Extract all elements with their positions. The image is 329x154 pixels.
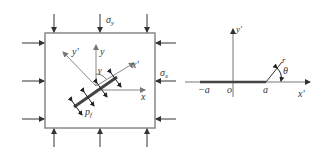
sigma-x-label: σx xyxy=(160,67,169,80)
gamma-label: γ xyxy=(98,65,102,75)
diagram-canvas: σy σx y x y' x' γ pf y' xyxy=(0,0,329,154)
right-y-prime-label: y' xyxy=(235,24,243,34)
left-stress-arrows xyxy=(22,43,44,119)
top-stress-arrows xyxy=(54,14,147,32)
pressure-label: pf xyxy=(84,106,93,119)
y-prime-label: y' xyxy=(71,46,79,57)
right-x-prime-label: x' xyxy=(297,88,305,99)
left-panel: σy σx y x y' x' γ pf xyxy=(22,14,176,147)
sigma-y-label: σy xyxy=(106,14,115,27)
origin-label: o xyxy=(227,84,232,95)
x-axis-label: x xyxy=(140,91,146,102)
theta-arc xyxy=(277,68,281,81)
a-label: a xyxy=(263,84,268,95)
y-axis-label: y xyxy=(99,46,105,57)
right-stress-arrows xyxy=(156,43,176,119)
minus-a-label: −a xyxy=(198,84,210,95)
bottom-stress-arrows xyxy=(54,129,147,147)
theta-label: θ xyxy=(283,65,288,76)
x-prime-label: x' xyxy=(131,59,139,70)
right-panel: y' x' −a o a r θ xyxy=(185,24,310,99)
r-label: r xyxy=(282,55,286,65)
